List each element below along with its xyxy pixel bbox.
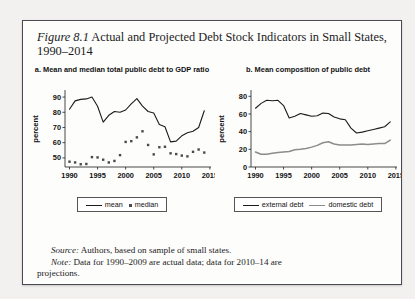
svg-text:2010: 2010 — [360, 171, 376, 180]
domestic-debt-line-swatch — [309, 205, 325, 206]
svg-text:2005: 2005 — [145, 171, 161, 180]
source-line: Source: Authors, based on sample of smal… — [37, 245, 389, 257]
svg-text:50: 50 — [53, 153, 61, 162]
chart-a-legend: mean median — [77, 197, 168, 212]
svg-text:2005: 2005 — [331, 171, 347, 180]
svg-text:2015: 2015 — [388, 171, 401, 180]
legend-item-mean: mean — [86, 200, 123, 209]
note-line-continued: projections. — [37, 268, 389, 280]
svg-text:percent: percent — [31, 115, 40, 143]
note-line: Note: Data for 1990–2009 are actual data… — [37, 257, 389, 269]
svg-text:2000: 2000 — [117, 171, 133, 180]
charts-container: a. Mean and median total public debt to … — [23, 65, 403, 241]
legend-label-median: median — [135, 200, 159, 209]
chart-a-svg: 5060708090199019952000200520102015percen… — [29, 85, 215, 193]
legend-item-median: median — [129, 200, 159, 209]
svg-text:70: 70 — [53, 123, 61, 132]
external-debt-line-swatch — [243, 205, 259, 206]
chart-panel-a: a. Mean and median total public debt to … — [29, 65, 215, 212]
source-text: Authors, based on sample of small states… — [79, 245, 231, 255]
svg-text:percent: percent — [217, 115, 226, 143]
svg-text:1990: 1990 — [247, 171, 263, 180]
legend-label-mean: mean — [105, 200, 123, 209]
legend-label-external-debt: external debt — [262, 200, 304, 209]
chart-a-plot: 5060708090199019952000200520102015percen… — [29, 85, 215, 193]
chart-b-svg: 020406080199019952000200520102015percent — [215, 85, 401, 193]
svg-text:20: 20 — [239, 145, 247, 154]
legend-item-domestic-debt: domestic debt — [309, 200, 373, 209]
svg-text:90: 90 — [53, 93, 61, 102]
svg-text:2015: 2015 — [202, 171, 215, 180]
svg-text:1990: 1990 — [61, 171, 77, 180]
svg-text:40: 40 — [239, 127, 247, 136]
svg-text:60: 60 — [53, 138, 61, 147]
legend-label-domestic-debt: domestic debt — [328, 200, 373, 209]
median-dot-swatch — [129, 204, 132, 207]
svg-text:2010: 2010 — [174, 171, 190, 180]
figure-number: Figure 8.1 — [37, 30, 89, 44]
note-text: Data for 1990–2009 are actual data; data… — [71, 257, 282, 267]
svg-text:1995: 1995 — [275, 171, 291, 180]
figure-title-text: Actual and Projected Debt Stock Indicato… — [37, 30, 387, 58]
chart-a-title: a. Mean and median total public debt to … — [29, 65, 215, 85]
mean-line-swatch — [86, 205, 102, 206]
source-label: Source: — [51, 245, 79, 255]
figure-title: Figure 8.1 Actual and Projected Debt Sto… — [37, 30, 387, 59]
svg-text:80: 80 — [239, 92, 247, 101]
figure-notes: Source: Authors, based on sample of smal… — [37, 245, 389, 280]
note-label: Note: — [51, 257, 71, 267]
legend-item-external-debt: external debt — [243, 200, 304, 209]
chart-b-plot: 020406080199019952000200520102015percent — [215, 85, 401, 193]
svg-text:60: 60 — [239, 110, 247, 119]
note-text-2: projections. — [37, 268, 80, 278]
chart-b-title: b. Mean composition of public debt — [215, 65, 401, 85]
chart-panel-b: b. Mean composition of public debt 02040… — [215, 65, 401, 212]
svg-text:2000: 2000 — [303, 171, 319, 180]
svg-text:1995: 1995 — [89, 171, 105, 180]
figure-frame: Figure 8.1 Actual and Projected Debt Sto… — [22, 20, 402, 285]
svg-text:80: 80 — [53, 108, 61, 117]
chart-b-legend: external debt domestic debt — [234, 197, 382, 212]
